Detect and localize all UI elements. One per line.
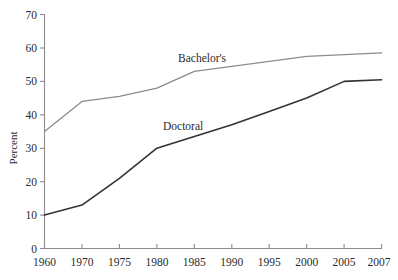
y-tick-label-20: 20 (26, 176, 38, 188)
y-tick-label-10: 10 (26, 209, 38, 221)
y-tick-label-0: 0 (31, 243, 37, 255)
y-tick-label-60: 60 (26, 42, 38, 54)
series-annotation-doctoral: Doctoral (163, 120, 203, 132)
x-tick-label-1970: 1970 (71, 256, 94, 268)
y-tick-label-70: 70 (26, 9, 38, 21)
series-annotation-bachelors: Bachelor's (178, 52, 227, 64)
chart-page: 70 60 50 40 30 20 10 0 Percent 1960 1970… (0, 0, 398, 280)
x-tick-label-1960: 1960 (33, 256, 56, 268)
x-tick-label-2000: 2000 (295, 256, 318, 268)
x-tick-label-1975: 1975 (108, 256, 131, 268)
line-chart: 70 60 50 40 30 20 10 0 Percent 1960 1970… (0, 0, 398, 280)
x-tick-label-2005: 2005 (333, 256, 356, 268)
x-tick-group (45, 244, 382, 249)
series-line-bachelors (45, 53, 382, 132)
x-tick-label-1980: 1980 (145, 256, 168, 268)
x-tick-label-1990: 1990 (220, 256, 243, 268)
y-tick-label-50: 50 (26, 75, 38, 87)
y-tick-group (40, 15, 45, 249)
y-axis-title: Percent (7, 132, 19, 165)
y-tick-label-30: 30 (26, 142, 38, 154)
x-tick-label-2007: 2007 (368, 256, 391, 268)
x-tick-label-1995: 1995 (258, 256, 281, 268)
y-tick-label-40: 40 (26, 109, 38, 121)
x-tick-label-1985: 1985 (183, 256, 206, 268)
